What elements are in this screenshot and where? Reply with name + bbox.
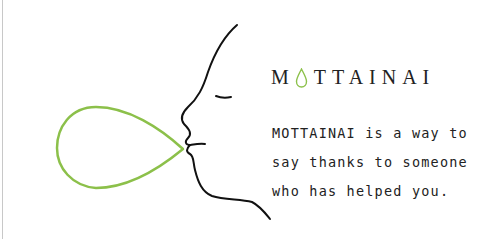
face-profile-icon	[182, 25, 270, 219]
green-droplet-icon	[295, 68, 308, 88]
title-prefix: M	[271, 66, 295, 89]
description-line: say thanks to someone	[272, 148, 468, 177]
brand-title: M TTAINAI	[271, 66, 435, 89]
closed-eye-icon	[216, 96, 231, 98]
description-line: who has helped you.	[272, 177, 468, 206]
description: MOTTAINAI is a way to say thanks to some…	[272, 119, 468, 206]
breath-droplet-icon	[57, 107, 183, 188]
title-suffix: TTAINAI	[314, 66, 435, 89]
description-line: MOTTAINAI is a way to	[272, 119, 468, 148]
